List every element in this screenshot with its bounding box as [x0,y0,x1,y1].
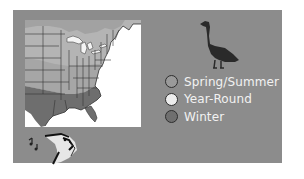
legend-item-spring-summer: Spring/Summer [165,73,279,91]
music-notes-icon [29,138,38,151]
spring-summer-swatch-icon [165,75,178,88]
legend-label: Winter [184,111,224,123]
legend-item-winter: Winter [165,108,279,126]
winter-swatch-icon [165,110,178,123]
legend-label: Year-Round [184,93,252,105]
songbird-icon[interactable] [23,128,93,168]
year-round-swatch-icon [165,93,178,106]
legend-item-year-round: Year-Round [165,91,279,109]
range-map-illustration [25,20,141,127]
legend-label: Spring/Summer [184,76,279,88]
range-map [25,20,141,127]
range-map-card: Spring/Summer Year-Round Winter [13,10,282,163]
goose-icon [197,18,241,69]
season-legend: Spring/Summer Year-Round Winter [165,73,279,126]
